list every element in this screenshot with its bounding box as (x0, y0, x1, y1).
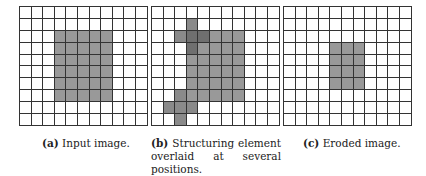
foreground-pixel (354, 66, 366, 78)
background-pixel (354, 7, 366, 19)
caption-structuring-element: (b) Structuring element overlaid at seve… (151, 137, 281, 176)
foreground-pixel (233, 90, 245, 102)
background-pixel (388, 102, 400, 114)
background-pixel (388, 66, 400, 78)
structuring-element-cell (175, 31, 187, 43)
background-pixel (245, 55, 257, 67)
background-pixel (124, 43, 136, 55)
background-pixel (164, 114, 176, 126)
background-pixel (210, 102, 222, 114)
foreground-pixel (187, 78, 199, 90)
background-pixel (377, 114, 389, 126)
background-pixel (164, 7, 176, 19)
background-pixel (400, 43, 412, 55)
background-pixel (55, 7, 67, 19)
background-pixel (307, 66, 319, 78)
background-pixel (152, 19, 164, 31)
foreground-pixel (210, 66, 222, 78)
background-pixel (101, 7, 113, 19)
background-pixel (268, 43, 280, 55)
background-pixel (152, 114, 164, 126)
background-pixel (284, 7, 296, 19)
foreground-pixel (55, 31, 67, 43)
background-pixel (136, 19, 148, 31)
background-pixel (20, 114, 32, 126)
background-pixel (365, 102, 377, 114)
background-pixel (175, 7, 187, 19)
foreground-pixel (354, 55, 366, 67)
background-pixel (175, 55, 187, 67)
background-pixel (377, 90, 389, 102)
foreground-pixel (233, 66, 245, 78)
background-pixel (32, 114, 44, 126)
background-pixel (296, 19, 308, 31)
background-pixel (365, 7, 377, 19)
background-pixel (400, 66, 412, 78)
foreground-pixel (187, 66, 199, 78)
background-pixel (319, 114, 331, 126)
foreground-pixel (55, 66, 67, 78)
background-pixel (113, 66, 125, 78)
background-pixel (175, 19, 187, 31)
background-pixel (388, 19, 400, 31)
background-pixel (20, 19, 32, 31)
background-pixel (164, 78, 176, 90)
background-pixel (365, 31, 377, 43)
background-pixel (296, 43, 308, 55)
background-pixel (319, 66, 331, 78)
background-pixel (342, 114, 354, 126)
background-pixel (256, 7, 268, 19)
background-pixel (101, 19, 113, 31)
caption-eroded-image: (c) Eroded image. (303, 137, 413, 150)
background-pixel (319, 102, 331, 114)
background-pixel (136, 66, 148, 78)
background-pixel (90, 7, 102, 19)
foreground-pixel (222, 31, 234, 43)
background-pixel (32, 31, 44, 43)
foreground-pixel (90, 66, 102, 78)
background-pixel (124, 66, 136, 78)
structuring-element-cell (175, 102, 187, 114)
background-pixel (296, 55, 308, 67)
background-pixel (400, 7, 412, 19)
background-pixel (78, 7, 90, 19)
background-pixel (400, 31, 412, 43)
background-pixel (32, 90, 44, 102)
background-pixel (365, 19, 377, 31)
foreground-pixel (342, 55, 354, 67)
background-pixel (284, 19, 296, 31)
caption-text: Eroded image. (323, 137, 401, 149)
background-pixel (175, 78, 187, 90)
background-pixel (284, 114, 296, 126)
background-pixel (32, 55, 44, 67)
background-pixel (124, 78, 136, 90)
background-pixel (377, 66, 389, 78)
foreground-pixel (198, 66, 210, 78)
background-pixel (400, 102, 412, 114)
foreground-pixel (198, 90, 210, 102)
background-pixel (152, 55, 164, 67)
background-pixel (164, 90, 176, 102)
caption-label: (c) (303, 137, 319, 149)
background-pixel (296, 31, 308, 43)
background-pixel (268, 19, 280, 31)
structuring-element-cell (175, 114, 187, 126)
foreground-pixel (222, 55, 234, 67)
background-pixel (113, 114, 125, 126)
background-pixel (66, 19, 78, 31)
foreground-pixel (90, 55, 102, 67)
structuring-element-cell (187, 19, 199, 31)
background-pixel (284, 90, 296, 102)
foreground-pixel (78, 55, 90, 67)
background-pixel (124, 7, 136, 19)
background-pixel (113, 19, 125, 31)
background-pixel (342, 90, 354, 102)
background-pixel (187, 114, 199, 126)
background-pixel (365, 90, 377, 102)
background-pixel (152, 43, 164, 55)
background-pixel (256, 31, 268, 43)
background-pixel (400, 90, 412, 102)
background-pixel (377, 7, 389, 19)
background-pixel (256, 55, 268, 67)
background-pixel (136, 55, 148, 67)
